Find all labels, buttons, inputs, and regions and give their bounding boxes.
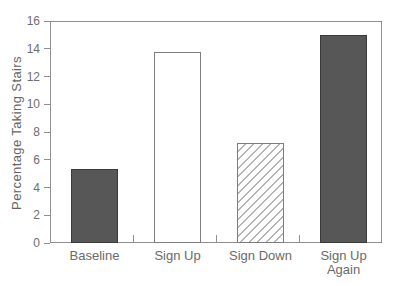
y-axis-tick-label: 6 [0, 152, 40, 168]
bar-sign-up [154, 52, 201, 243]
chart-layer: 0246810121416BaselineSign UpSign DownSig… [0, 0, 399, 286]
y-axis-tick-label: 10 [0, 96, 40, 112]
x-axis-tick [133, 235, 134, 242]
y-axis-tick-label: 0 [0, 235, 40, 251]
y-axis-tick [44, 132, 50, 133]
y-axis-tick [44, 104, 50, 105]
y-axis-tick-label: 14 [0, 41, 40, 57]
y-axis-tick-label: 2 [0, 207, 40, 223]
y-axis-tick [44, 243, 50, 244]
y-axis-tick [44, 76, 50, 77]
y-axis-tick-label: 12 [0, 69, 40, 85]
y-axis-tick [44, 159, 50, 160]
y-axis-tick [44, 215, 50, 216]
x-axis-label: Sign Up [136, 249, 220, 263]
bar-sign-down [237, 143, 284, 243]
x-axis-label: Sign Up Again [302, 249, 386, 277]
bar-sign-up-again [320, 35, 367, 243]
y-axis-tick-label: 8 [0, 124, 40, 140]
y-axis-tick-label: 4 [0, 180, 40, 196]
bar-baseline [71, 169, 118, 243]
x-axis-tick [299, 235, 300, 242]
bar-chart-figure: Percentage Taking Stairs 0246810121416Ba… [0, 0, 399, 286]
x-axis-tick [216, 235, 217, 242]
x-axis-label: Sign Down [219, 249, 303, 263]
y-axis-tick [44, 48, 50, 49]
y-axis-tick [44, 187, 50, 188]
y-axis-tick-label: 16 [0, 13, 40, 29]
y-axis-tick [44, 21, 50, 22]
x-axis-label: Baseline [53, 249, 137, 263]
